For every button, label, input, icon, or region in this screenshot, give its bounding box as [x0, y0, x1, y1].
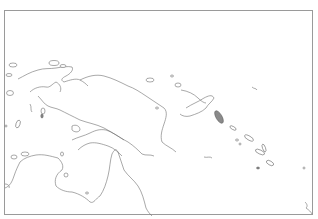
northern-australia-coastline	[5, 150, 312, 216]
solomon-islands	[204, 87, 305, 169]
outline-map	[0, 0, 318, 219]
west-papua-islands	[5, 61, 80, 132]
bismarck-archipelago	[146, 75, 214, 116]
